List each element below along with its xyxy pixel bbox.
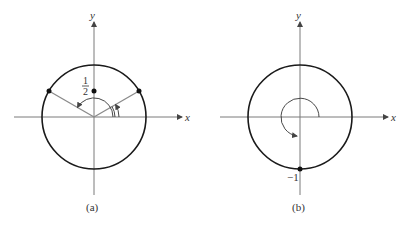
point-half (92, 89, 97, 94)
ray-30-deg (94, 91, 139, 117)
caption-a: (a) (86, 201, 99, 214)
point-30-deg (137, 89, 142, 94)
angle-arc-30 (116, 105, 119, 118)
half-numerator: 1 (83, 75, 88, 86)
caption-b: (b) (292, 201, 305, 214)
half-denominator: 2 (83, 86, 88, 97)
x-axis-label: x (390, 111, 396, 123)
neg-one-label: −1 (287, 171, 299, 183)
panel-b: x y −1 (b) (220, 9, 396, 214)
panel-a: x y 1 2 (a) (14, 9, 190, 214)
figure-canvas: x y 1 2 (a) x y −1 (b) (0, 0, 409, 228)
y-axis-label: y (89, 9, 95, 21)
y-axis-label: y (295, 9, 301, 21)
point-150-deg (47, 89, 52, 94)
x-axis-label: x (184, 111, 190, 123)
angle-arc-150 (78, 98, 114, 117)
